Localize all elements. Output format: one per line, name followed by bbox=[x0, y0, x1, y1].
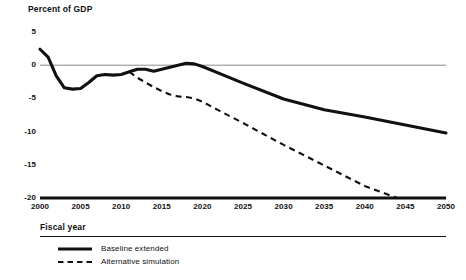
x-tick-label: 2005 bbox=[61, 203, 101, 211]
legend-divider bbox=[40, 236, 446, 237]
chart-canvas bbox=[40, 32, 446, 198]
chart-figure: Percent of GDP 50-5-10-15-20 20002005201… bbox=[0, 0, 466, 280]
legend-item-baseline-extended: Baseline extended bbox=[40, 242, 440, 255]
x-tick-label: 2040 bbox=[345, 203, 385, 211]
x-tick-label: 2000 bbox=[20, 203, 60, 211]
plot-area bbox=[40, 32, 446, 198]
y-tick-label: -5 bbox=[6, 94, 36, 102]
y-tick-label: -15 bbox=[6, 161, 36, 169]
x-tick-label: 2035 bbox=[304, 203, 344, 211]
x-tick-label: 2045 bbox=[385, 203, 425, 211]
x-tick-label: 2030 bbox=[264, 203, 304, 211]
series-line-baseline-extended bbox=[40, 49, 446, 133]
legend-block: Fiscal year Baseline extended Alternativ… bbox=[40, 222, 440, 268]
legend-label-baseline-extended: Baseline extended bbox=[101, 244, 169, 253]
x-tick-label: 2050 bbox=[426, 203, 466, 211]
chart-title: Percent of GDP bbox=[28, 4, 92, 14]
x-axis-label: Fiscal year bbox=[40, 222, 440, 232]
legend-item-alternative-simulation: Alternative simulation bbox=[40, 255, 440, 268]
y-tick-label: -20 bbox=[6, 194, 36, 202]
x-tick-label: 2010 bbox=[101, 203, 141, 211]
legend-swatch-solid-icon bbox=[58, 244, 92, 254]
x-tick-label: 2025 bbox=[223, 203, 263, 211]
x-tick-label: 2015 bbox=[142, 203, 182, 211]
y-axis-tick-labels: 50-5-10-15-20 bbox=[0, 0, 36, 280]
y-tick-label: 0 bbox=[6, 61, 36, 69]
y-tick-label: -10 bbox=[6, 128, 36, 136]
x-axis-tick-labels: 2000200520102015202020252030203520402045… bbox=[0, 203, 466, 217]
legend-swatch-dashed-icon bbox=[58, 257, 92, 267]
legend-label-alternative-simulation: Alternative simulation bbox=[101, 257, 179, 266]
y-tick-label: 5 bbox=[6, 28, 36, 36]
x-tick-label: 2020 bbox=[182, 203, 222, 211]
